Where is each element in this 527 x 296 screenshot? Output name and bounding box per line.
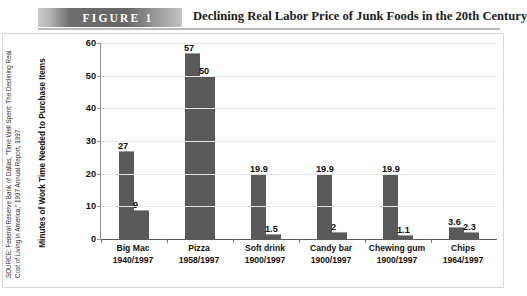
x-category-label: Candy bar1900/1997 <box>298 243 364 266</box>
bar-value-label: 50 <box>199 66 209 76</box>
figure-title: Declining Real Labor Price of Junk Foods… <box>193 9 527 24</box>
x-category-years: 1900/1997 <box>232 255 298 267</box>
y-axis-tick-labels: 0102030405060 <box>70 43 96 239</box>
header-divider <box>38 28 500 30</box>
gridline <box>101 206 497 207</box>
y-tick-mark <box>97 141 101 142</box>
bar[interactable]: 1.1 <box>398 235 413 239</box>
y-tick-label: 60 <box>86 38 96 48</box>
x-category-name: Chewing gum <box>364 243 430 255</box>
y-tick-mark <box>97 76 101 77</box>
y-tick-label: 40 <box>86 103 96 113</box>
bar-value-label: 27 <box>118 141 128 151</box>
y-tick-mark <box>97 43 101 44</box>
x-category-years: 1900/1997 <box>298 255 364 267</box>
y-tick-label: 20 <box>86 169 96 179</box>
source-note: SOURCE: Federal Reserve Bank of Dallas, … <box>4 38 34 278</box>
x-axis-category-labels: Big Mac1940/1997Pizza1958/1997Soft drink… <box>100 243 496 266</box>
y-tick-label: 50 <box>86 71 96 81</box>
x-category-name: Big Mac <box>100 243 166 255</box>
bar[interactable]: 50 <box>200 76 215 239</box>
y-tick-mark <box>97 174 101 175</box>
bar[interactable]: 1.5 <box>266 234 281 239</box>
bar-value-label: 1.1 <box>397 225 410 235</box>
bar-value-label: 1.5 <box>265 224 278 234</box>
y-tick-mark <box>97 108 101 109</box>
bar-value-label: 57 <box>184 43 194 53</box>
x-category-label: Chewing gum1900/1997 <box>364 243 430 266</box>
x-category-name: Candy bar <box>298 243 364 255</box>
gridline <box>101 174 497 175</box>
bar[interactable]: 2.3 <box>464 232 479 240</box>
figure-number-badge: FIGURE 1 <box>38 8 182 27</box>
bar[interactable]: 27 <box>119 151 134 239</box>
figure-header: FIGURE 1 Declining Real Labor Price of J… <box>38 8 500 27</box>
x-category-name: Pizza <box>166 243 232 255</box>
bar-value-label: 3.6 <box>448 217 461 227</box>
gridline <box>101 141 497 142</box>
x-category-years: 1964/1997 <box>430 255 496 267</box>
y-tick-label: 0 <box>91 234 96 244</box>
chart-plot-wrapper: 0102030405060 279575019.91.519.9219.91.1… <box>70 43 498 285</box>
x-category-years: 1940/1997 <box>100 255 166 267</box>
x-category-name: Chips <box>430 243 496 255</box>
plot-area: 279575019.91.519.9219.91.13.62.3 <box>100 43 497 240</box>
x-category-label: Big Mac1940/1997 <box>100 243 166 266</box>
y-axis-title: Minutes of Work Time Needed to Purchase … <box>36 48 50 258</box>
x-category-label: Soft drink1900/1997 <box>232 243 298 266</box>
bar[interactable]: 2 <box>332 232 347 239</box>
x-category-years: 1900/1997 <box>364 255 430 267</box>
y-tick-mark <box>97 239 101 240</box>
bar[interactable]: 3.6 <box>449 227 464 239</box>
x-category-label: Pizza1958/1997 <box>166 243 232 266</box>
bar-value-label: 2 <box>331 222 336 232</box>
gridline <box>101 76 497 77</box>
bar-value-label: 9 <box>133 200 138 210</box>
bar-value-label: 2.3 <box>463 222 476 232</box>
y-tick-label: 30 <box>86 136 96 146</box>
gridline <box>101 43 497 44</box>
gridline <box>101 108 497 109</box>
x-category-label: Chips1964/1997 <box>430 243 496 266</box>
bar[interactable]: 57 <box>185 53 200 239</box>
y-tick-mark <box>97 206 101 207</box>
bar[interactable]: 9 <box>134 210 149 239</box>
x-category-name: Soft drink <box>232 243 298 255</box>
y-tick-label: 10 <box>86 201 96 211</box>
x-category-years: 1958/1997 <box>166 255 232 267</box>
